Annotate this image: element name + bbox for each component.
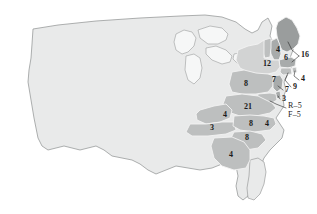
electoral-vote-map: 4 6 16 12 4 9 7 3 8 7 R–5 F–5 21 4 3 8 4… [0,0,317,214]
vote-label-delaware: 3 [282,95,286,103]
vote-label-new-york: 12 [263,60,271,68]
map-layers [28,15,300,200]
state-pennsylvania [229,70,274,94]
state-connecticut [280,68,292,75]
vote-label-new-hampshire: 4 [276,46,280,54]
vote-label-georgia: 4 [229,151,233,159]
vote-label-new-jersey: 7 [285,86,289,94]
vote-label-pennsylvania: 8 [244,80,248,88]
vote-label-massachusetts: 6 [284,54,288,62]
vote-label-virginia: 21 [244,103,252,111]
vote-label-connecticut: 9 [293,83,297,91]
vote-label-kentucky: 4 [223,111,227,119]
vote-label-new-jersey-inline: 7 [272,76,276,84]
vote-label-maine-massachusetts: 16 [301,51,309,59]
vote-label-maryland-federalist: F–5 [288,111,301,119]
vote-label-north-carolina-east: 4 [265,120,269,128]
us-map-graphic [0,0,317,214]
vote-label-tennessee: 3 [210,124,214,132]
state-north-carolina [233,115,276,132]
florida-unshaded [247,158,266,200]
vote-label-south-carolina: 8 [245,134,249,142]
vote-label-maryland-republican: R–5 [288,102,302,110]
vote-label-rhode-island: 4 [301,75,305,83]
vote-label-north-carolina: 8 [249,120,253,128]
